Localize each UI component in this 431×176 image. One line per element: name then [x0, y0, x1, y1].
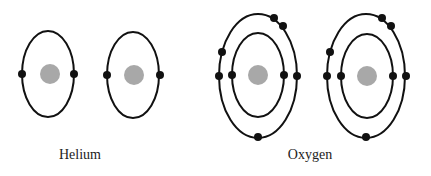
nucleus [40, 64, 60, 84]
electron [326, 48, 334, 56]
electron [323, 72, 331, 80]
electron [218, 48, 226, 56]
oxygen-label: Oxygen [288, 147, 332, 162]
nucleus [357, 66, 377, 86]
electron [270, 14, 278, 22]
electron [337, 72, 345, 80]
helium-label: Helium [59, 147, 101, 162]
helium-atom-1 [18, 31, 78, 117]
oxygen-atom-2 [323, 14, 410, 141]
nucleus [248, 65, 268, 85]
electron [402, 72, 410, 80]
electron [378, 14, 386, 22]
electron [362, 133, 370, 141]
oxygen-atom-1 [215, 14, 301, 141]
nucleus [124, 65, 144, 85]
electron [389, 72, 397, 80]
electron [387, 22, 395, 30]
electron [103, 71, 111, 79]
electron [280, 71, 288, 79]
electron [70, 70, 78, 78]
electron [279, 22, 287, 30]
electron [228, 71, 236, 79]
electron [293, 72, 301, 80]
electron [18, 70, 26, 78]
electron [215, 72, 223, 80]
helium-atom-2 [103, 32, 164, 118]
electron [254, 133, 262, 141]
electron [156, 71, 164, 79]
atom-diagram: Helium Oxygen [0, 0, 431, 176]
